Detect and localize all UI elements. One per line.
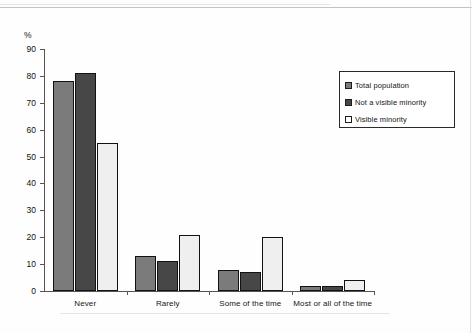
y-axis-line xyxy=(44,49,45,292)
y-axis-tick-label: 70 xyxy=(0,98,36,108)
legend-label: Not a visible minority xyxy=(355,98,426,107)
legend-swatch-total-population-icon xyxy=(345,82,352,89)
x-axis-category-label: Most or all of the time xyxy=(273,299,393,308)
bar xyxy=(53,81,74,291)
legend-label: Visible minority xyxy=(355,115,407,124)
y-axis-tick-label: 50 xyxy=(0,152,36,162)
y-axis-tick xyxy=(40,76,45,77)
y-axis-tick-label: 30 xyxy=(0,205,36,215)
bar xyxy=(218,270,239,292)
y-axis-tick xyxy=(40,130,45,131)
legend-label: Total population xyxy=(355,81,409,90)
y-axis-tick xyxy=(40,210,45,211)
chart-page: % 9080706050403020100 NeverRarelySome of… xyxy=(0,0,472,333)
bar xyxy=(262,237,283,291)
y-axis-tick-labels: 9080706050403020100 xyxy=(0,0,40,333)
legend-swatch-not-visible-minority-icon xyxy=(345,99,352,106)
y-axis-tick-label: 40 xyxy=(0,178,36,188)
bar-chart: % 9080706050403020100 NeverRarelySome of… xyxy=(0,0,472,333)
bar xyxy=(135,256,156,291)
y-axis-tick-label: 80 xyxy=(0,71,36,81)
y-axis-tick xyxy=(40,157,45,158)
bar xyxy=(344,280,365,291)
y-axis-tick xyxy=(40,49,45,50)
legend-swatch-visible-minority-icon xyxy=(345,116,352,123)
legend-item: Not a visible minority xyxy=(345,95,454,110)
x-axis-tick xyxy=(374,291,375,295)
bar xyxy=(179,235,200,291)
y-axis-tick-label: 20 xyxy=(0,232,36,242)
bar xyxy=(300,286,321,291)
bar xyxy=(322,286,343,291)
bar xyxy=(97,143,118,291)
chart-legend: Total population Not a visible minority … xyxy=(339,71,455,128)
bar xyxy=(240,272,261,291)
y-axis-tick-label: 90 xyxy=(0,44,36,54)
y-axis-tick xyxy=(40,183,45,184)
x-axis-tick xyxy=(292,291,293,295)
y-axis-tick-label: 0 xyxy=(0,286,36,296)
y-axis-tick xyxy=(40,264,45,265)
y-axis-tick xyxy=(40,291,45,292)
x-axis-tick xyxy=(209,291,210,295)
bar xyxy=(75,73,96,291)
x-axis-tick xyxy=(127,291,128,295)
y-axis-tick xyxy=(40,103,45,104)
legend-item: Total population xyxy=(345,78,454,93)
y-axis-tick-label: 10 xyxy=(0,259,36,269)
bar xyxy=(157,261,178,291)
y-axis-tick-label: 60 xyxy=(0,125,36,135)
y-axis-tick xyxy=(40,237,45,238)
legend-item: Visible minority xyxy=(345,112,454,127)
